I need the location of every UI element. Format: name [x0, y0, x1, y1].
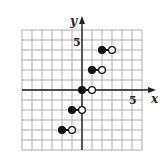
axes	[22, 20, 152, 150]
y-tick-label: 5	[73, 36, 81, 49]
closed-dot-icon	[99, 47, 106, 54]
closed-dot-icon	[59, 127, 66, 134]
closed-dot-icon	[69, 107, 76, 114]
open-dot-icon	[79, 107, 86, 114]
open-dot-icon	[69, 127, 76, 134]
y-axis-arrow-icon	[79, 16, 85, 24]
open-dot-icon	[109, 47, 116, 54]
x-tick-label: 5	[129, 94, 137, 107]
open-dot-icon	[89, 87, 96, 94]
y-axis-label: y	[69, 14, 78, 28]
closed-dot-icon	[79, 87, 86, 94]
step-function-graph: x y 5 5	[0, 0, 167, 154]
open-dot-icon	[99, 67, 106, 74]
x-axis-label: x	[150, 92, 159, 106]
closed-dot-icon	[89, 67, 96, 74]
